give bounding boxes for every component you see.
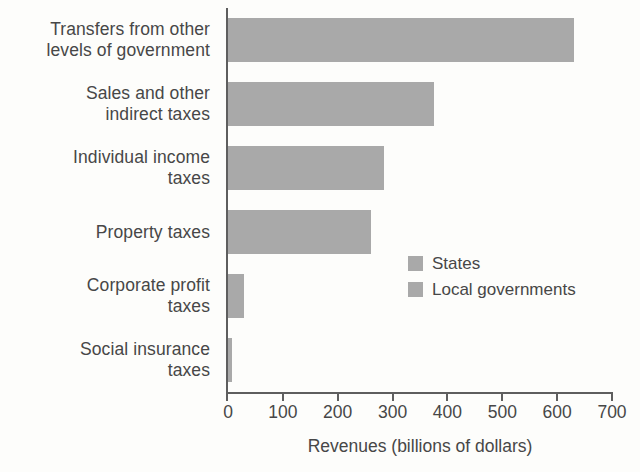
x-axis-title: Revenues (billions of dollars) [228, 436, 612, 457]
legend-swatch-icon [408, 256, 423, 271]
category-label: Corporate profittaxes [0, 275, 210, 317]
x-axis-tick [501, 392, 503, 401]
category-label-line: levels of government [0, 40, 210, 61]
legend-label: Local governments [432, 281, 576, 298]
category-label-line: indirect taxes [0, 104, 210, 125]
category-label-line: Corporate profit [0, 275, 210, 296]
bar [228, 338, 232, 382]
category-axis-labels: Transfers from otherlevels of government… [0, 0, 222, 392]
x-axis-tick-label: 400 [433, 402, 462, 423]
category-label: Transfers from otherlevels of government [0, 19, 210, 61]
plot-area: StatesLocal governments [228, 8, 612, 392]
category-label: Sales and otherindirect taxes [0, 83, 210, 125]
x-axis-tick-label: 200 [323, 402, 352, 423]
category-label-line: Individual income [0, 147, 210, 168]
legend-swatch-icon [408, 282, 423, 297]
x-axis-tick [556, 392, 558, 401]
category-label-line: taxes [0, 168, 210, 189]
bar-series [228, 8, 612, 392]
x-axis-ticks [228, 392, 612, 401]
category-label-line: Social insurance [0, 339, 210, 360]
category-label-line: taxes [0, 360, 210, 381]
bar [228, 274, 244, 318]
category-label-line: Property taxes [0, 222, 210, 243]
bar [228, 82, 434, 126]
x-axis-tick [446, 392, 448, 401]
category-label: Individual incometaxes [0, 147, 210, 189]
x-axis-tick [282, 392, 284, 401]
x-axis-tick [337, 392, 339, 401]
category-label-line: Transfers from other [0, 19, 210, 40]
x-axis-tick [611, 392, 613, 401]
x-axis-tick [226, 392, 228, 401]
category-label-line: taxes [0, 296, 210, 317]
x-axis-tick-label: 700 [597, 402, 626, 423]
category-label: Social insurancetaxes [0, 339, 210, 381]
legend-item: Local governments [408, 279, 608, 300]
x-axis-tick [392, 392, 394, 401]
x-axis-tick-label: 600 [543, 402, 572, 423]
x-axis-tick-labels: 0100200300400500600700 [228, 402, 612, 426]
x-axis-tick-label: 300 [378, 402, 407, 423]
legend-item: States [408, 253, 608, 274]
bar [228, 18, 574, 62]
x-axis-tick-label: 0 [223, 402, 233, 423]
bar-chart: Transfers from otherlevels of government… [0, 0, 640, 472]
bar [228, 146, 384, 190]
legend-label: States [432, 255, 480, 272]
bar [228, 210, 371, 254]
legend: StatesLocal governments [408, 253, 608, 305]
category-label-line: Sales and other [0, 83, 210, 104]
x-axis-tick-label: 100 [268, 402, 297, 423]
category-label: Property taxes [0, 222, 210, 243]
x-axis-tick-label: 500 [488, 402, 517, 423]
